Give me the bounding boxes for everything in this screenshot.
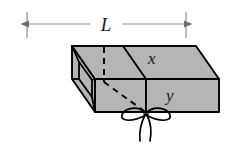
front-face bbox=[95, 79, 219, 112]
bow-tail-left bbox=[140, 115, 145, 141]
string-bow bbox=[122, 108, 170, 141]
edge-label-y: y bbox=[164, 86, 174, 105]
top-face bbox=[72, 46, 219, 79]
parcel-diagram: L x y bbox=[0, 0, 241, 144]
length-dimension-group: L bbox=[27, 12, 186, 38]
length-label: L bbox=[100, 14, 112, 35]
edge-label-x: x bbox=[147, 49, 156, 68]
figure-container: L x y bbox=[0, 0, 241, 144]
bow-tail-right bbox=[147, 115, 151, 141]
open-end-bevel-top-right bbox=[92, 79, 95, 80]
box-solid: x y bbox=[72, 46, 219, 112]
